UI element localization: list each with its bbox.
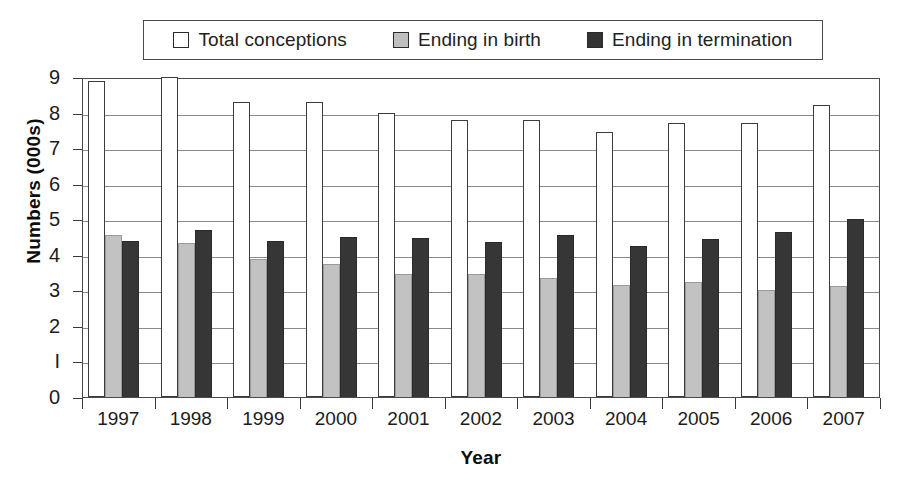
ending-in-birth-swatch-icon [393,32,409,48]
chart-figure: Total conceptions Ending in birth Ending… [0,0,897,496]
bar-ending-in-birth [395,274,412,397]
x-axis-tick-label: 1998 [155,408,227,430]
bar-group [736,79,809,397]
bar-ending-in-birth [540,278,557,397]
bar-group [301,79,374,397]
bar-total-conceptions [306,102,323,397]
y-axis-tick-mark [73,327,82,328]
bar-group [591,79,664,397]
bar-ending-in-termination [122,241,139,397]
bar-ending-in-termination [267,241,284,397]
y-axis-tick-label: 3 [34,280,60,300]
bar-ending-in-termination [195,230,212,397]
y-axis-tick-mark [73,220,82,221]
bar-group [156,79,229,397]
y-axis-tick-label: 9 [34,67,60,87]
bar-ending-in-birth [105,235,122,397]
x-axis-tick-label: 2006 [735,408,807,430]
bar-ending-in-termination [702,239,719,397]
bar-total-conceptions [523,120,540,397]
bar-total-conceptions [378,113,395,397]
y-axis-tick-label: 5 [34,209,60,229]
chart-legend: Total conceptions Ending in birth Ending… [143,20,823,60]
x-axis-tick-label: 2007 [808,408,880,430]
bar-ending-in-birth [468,274,485,397]
x-axis-tick-label: 2005 [663,408,735,430]
bar-total-conceptions [596,132,613,397]
bar-group [808,79,881,397]
bar-group [518,79,591,397]
y-axis-tick-mark [73,362,82,363]
bar-total-conceptions [88,81,105,397]
legend-label-total-conceptions: Total conceptions [198,29,347,51]
y-axis-tick-label: 2 [34,316,60,336]
bar-ending-in-termination [412,238,429,397]
total-conceptions-swatch-icon [173,32,189,48]
legend-item-ending-in-termination: Ending in termination [587,29,793,51]
y-axis-tick-label: 0 [34,387,60,407]
y-axis-tick-mark [73,149,82,150]
x-axis-tick-label: 2000 [300,408,372,430]
bar-ending-in-birth [758,290,775,397]
x-axis-tick-label: 1999 [227,408,299,430]
bar-total-conceptions [668,123,685,397]
y-axis-tick-label: 7 [34,138,60,158]
bar-ending-in-birth [830,286,847,397]
legend-label-ending-in-birth: Ending in birth [418,29,541,51]
y-axis-tick-label: 8 [34,103,60,123]
x-axis-tick-label: 2004 [590,408,662,430]
bar-ending-in-birth [250,259,267,397]
x-axis-tick-label: 2002 [445,408,517,430]
bar-total-conceptions [741,123,758,397]
x-axis-tick-mark [880,398,881,409]
ending-in-termination-swatch-icon [587,32,603,48]
bar-ending-in-termination [775,232,792,397]
bar-ending-in-birth [178,243,195,397]
bar-group [446,79,519,397]
plot-area [82,78,880,398]
bar-ending-in-termination [557,235,574,397]
y-axis-tick-mark [73,78,82,79]
bar-group [83,79,156,397]
bar-ending-in-birth [613,285,630,397]
y-axis-tick-mark [73,185,82,186]
legend-item-total-conceptions: Total conceptions [173,29,347,51]
y-axis-tick-mark [73,291,82,292]
bar-ending-in-termination [340,237,357,397]
bar-ending-in-birth [323,264,340,397]
y-axis-tick-label: 6 [34,174,60,194]
x-axis-tick-label: 1997 [82,408,154,430]
x-axis-title: Year [82,447,880,469]
bar-total-conceptions [451,120,468,397]
bar-ending-in-birth [685,282,702,397]
bar-group [663,79,736,397]
x-axis-tick-label: 2003 [518,408,590,430]
y-axis-tick-label: I [34,351,60,371]
y-axis-tick-label: 4 [34,245,60,265]
bar-ending-in-termination [485,242,502,397]
bar-group [228,79,301,397]
y-axis-tick-mark [73,256,82,257]
bar-total-conceptions [161,77,178,397]
bar-ending-in-termination [630,246,647,397]
x-axis-tick-label: 2001 [372,408,444,430]
y-axis-tick-mark [73,114,82,115]
y-axis-tick-mark [73,398,82,399]
legend-label-ending-in-termination: Ending in termination [612,29,793,51]
legend-item-ending-in-birth: Ending in birth [393,29,541,51]
bar-group [373,79,446,397]
bar-total-conceptions [233,102,250,397]
bar-total-conceptions [813,105,830,397]
bar-ending-in-termination [847,219,864,397]
